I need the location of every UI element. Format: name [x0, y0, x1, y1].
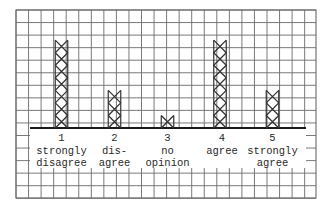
x-mark-icon	[108, 115, 121, 128]
x-mark-icon	[214, 65, 227, 78]
x-mark-icon	[214, 90, 227, 103]
x-mark-icon	[214, 53, 227, 66]
x-mark-icon	[214, 78, 227, 91]
category-label-line1: dis-	[102, 145, 127, 157]
category-label-line2: opinion	[145, 157, 189, 169]
category-number: 5	[269, 132, 275, 144]
x-mark-icon	[266, 90, 279, 103]
x-mark-icon	[266, 103, 279, 116]
category-number: 2	[111, 132, 117, 144]
x-mark-icon	[108, 103, 121, 116]
category-number: 1	[58, 132, 64, 144]
x-mark-icon	[214, 103, 227, 116]
category-number: 4	[219, 132, 225, 144]
x-mark-icon	[108, 90, 121, 103]
tally-column-5	[266, 90, 279, 128]
x-mark-icon	[266, 115, 279, 128]
category-label-line2: disagree	[36, 157, 86, 169]
tally-chart: 1stronglydisagree2dis-agree3noopinion4ag…	[0, 0, 335, 206]
category-label-line1: strongly	[36, 145, 86, 157]
category-label-line2: agree	[257, 157, 289, 169]
tally-column-2	[108, 90, 121, 128]
category-number: 3	[164, 132, 170, 144]
category-label-line1: agree	[206, 145, 238, 157]
category-label-line1: strongly	[247, 145, 297, 157]
grid-paper	[16, 10, 316, 198]
tally-column-3	[161, 115, 174, 128]
x-mark-icon	[161, 115, 174, 128]
x-mark-icon	[214, 40, 227, 53]
x-mark-icon	[214, 115, 227, 128]
tally-column-4	[214, 40, 227, 128]
category-label-line2: agree	[99, 157, 131, 169]
category-label-line1: no	[161, 145, 174, 157]
